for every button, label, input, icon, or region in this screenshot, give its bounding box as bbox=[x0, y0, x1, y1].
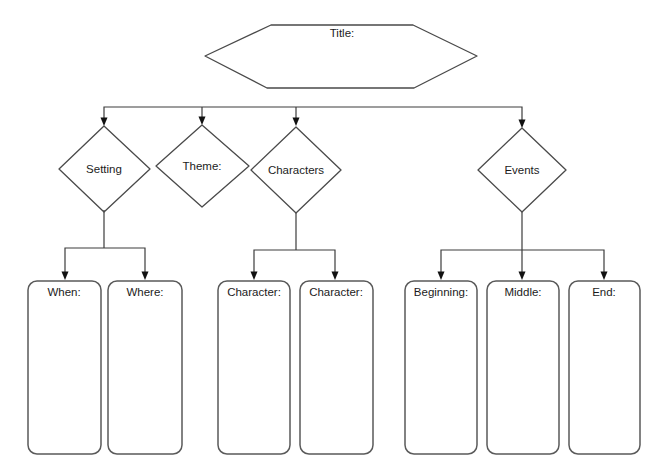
where-box bbox=[108, 281, 182, 454]
story-map-page: Title: Setting Theme: Characters Events … bbox=[0, 0, 669, 475]
arrow-down-icon-theme bbox=[199, 117, 206, 126]
when-label: When: bbox=[47, 286, 80, 298]
middle-box bbox=[487, 281, 559, 454]
when-box bbox=[28, 281, 101, 454]
characters-label: Characters bbox=[268, 164, 324, 176]
arrow-down-icon-characters bbox=[293, 118, 300, 127]
character1-label: Character: bbox=[227, 286, 281, 298]
theme-label: Theme: bbox=[183, 160, 222, 172]
setting-label: Setting bbox=[86, 163, 122, 175]
arrow-down-icon-events bbox=[519, 120, 526, 129]
connectors bbox=[65, 107, 604, 272]
middle-label: Middle: bbox=[504, 286, 541, 298]
connector-events-branch bbox=[441, 212, 604, 272]
character2-box bbox=[300, 281, 373, 454]
character1-box bbox=[218, 281, 290, 454]
connector-characters-branch bbox=[254, 213, 335, 272]
arrow-down-icon-end bbox=[601, 272, 608, 281]
arrow-down-icon-character1 bbox=[251, 272, 258, 281]
arrow-down-icon-when bbox=[62, 272, 69, 281]
title-label: Title: bbox=[330, 27, 355, 39]
node-shapes bbox=[59, 25, 566, 213]
labels: Title: Setting Theme: Characters Events … bbox=[47, 27, 615, 298]
story-map-diagram: Title: Setting Theme: Characters Events … bbox=[0, 0, 669, 475]
arrow-down-icon-middle bbox=[519, 272, 526, 281]
character2-label: Character: bbox=[309, 286, 363, 298]
where-label: Where: bbox=[126, 286, 163, 298]
arrow-down-icon-character2 bbox=[332, 272, 339, 281]
end-label: End: bbox=[592, 286, 616, 298]
field-boxes bbox=[28, 281, 640, 454]
arrow-down-icon-where bbox=[142, 272, 149, 281]
connector-distribution-line bbox=[104, 107, 522, 120]
events-label: Events bbox=[504, 164, 539, 176]
arrow-down-icon-beginning bbox=[438, 272, 445, 281]
connector-setting-branch bbox=[65, 210, 145, 272]
arrow-down-icon-setting bbox=[101, 118, 108, 127]
beginning-box bbox=[405, 281, 477, 454]
beginning-label: Beginning: bbox=[414, 286, 468, 298]
end-box bbox=[569, 281, 640, 454]
